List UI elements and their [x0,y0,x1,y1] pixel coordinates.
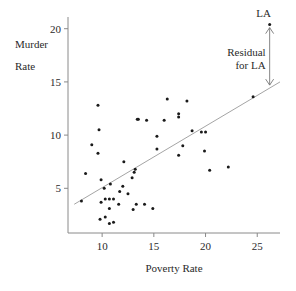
data-point [122,160,125,163]
data-point [166,97,169,100]
data-point [98,128,101,131]
data-point [96,104,99,107]
residual-label-line2: for LA [235,59,265,71]
regression-line [74,82,280,204]
y-axis-title-line1: Murder [15,38,48,50]
la-point-label: LA [256,7,271,19]
data-point [112,197,115,200]
data-point [133,171,136,174]
data-point [185,100,188,103]
x-axis: 10152025 Poverty Rate [68,233,280,274]
data-point [100,178,103,181]
data-point [121,185,124,188]
y-tick-label: 20 [50,23,62,35]
y-tick-label: 15 [50,76,62,88]
data-point [191,129,194,132]
y-axis-title-line2: Rate [15,60,35,72]
data-point [155,147,158,150]
data-point [155,135,158,138]
y-tick-label: 10 [50,129,62,141]
data-point [126,192,129,195]
x-tick-label: 10 [97,240,109,252]
data-point [117,203,120,206]
data-point [145,119,148,122]
data-point [118,190,121,193]
data-point [200,130,203,133]
x-ticks: 10152025 [97,233,264,252]
data-point [80,200,83,203]
data-point [177,112,180,115]
data-point [177,116,180,119]
data-point [90,143,93,146]
data-point-la [268,23,271,26]
data-point [137,118,140,121]
data-point [163,119,166,122]
data-point [134,168,137,171]
data-point [132,208,135,211]
x-tick-label: 25 [252,240,264,252]
x-axis-title: Poverty Rate [145,262,202,274]
data-point [108,207,111,210]
data-point [104,216,107,219]
data-point [177,154,180,157]
data-point [135,203,138,206]
data-point [112,221,115,224]
data-point [203,150,206,153]
data-point [208,169,211,172]
data-point [108,222,111,225]
data-point [108,197,111,200]
data-point [227,166,230,169]
data-point [252,95,255,98]
data-point [181,144,184,147]
residual-annotation: LA Residual for LA [227,7,274,85]
data-point [204,130,207,133]
x-tick-label: 15 [148,240,160,252]
data-point [103,187,106,190]
data-point [96,152,99,155]
y-axis: 5101520 [50,17,68,233]
data-point [151,207,154,210]
data-point [109,183,112,186]
residual-label-line1: Residual [227,46,266,58]
y-tick-label: 5 [56,182,62,194]
data-point [131,176,134,179]
data-point [99,218,102,221]
data-point [143,203,146,206]
data-point [84,172,87,175]
data-point [100,201,103,204]
data-point [104,197,107,200]
y-ticks: 5101520 [50,23,68,195]
x-tick-label: 20 [200,240,212,252]
